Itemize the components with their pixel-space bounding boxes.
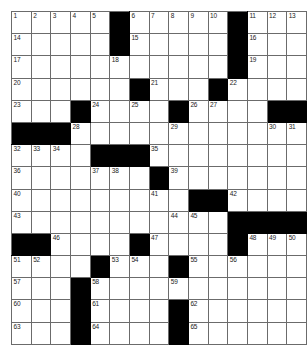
crossword-cell[interactable]: [208, 233, 228, 255]
crossword-cell[interactable]: [51, 56, 71, 78]
crossword-cell[interactable]: [267, 78, 287, 100]
crossword-cell[interactable]: [247, 322, 267, 344]
crossword-cell[interactable]: [51, 167, 71, 189]
crossword-cell[interactable]: [287, 189, 307, 211]
crossword-cell[interactable]: [90, 211, 110, 233]
crossword-cell[interactable]: [90, 189, 110, 211]
crossword-cell[interactable]: [31, 78, 51, 100]
crossword-cell[interactable]: [51, 322, 71, 344]
crossword-cell[interactable]: 64: [90, 322, 110, 344]
crossword-cell[interactable]: 43: [12, 211, 32, 233]
crossword-cell[interactable]: [208, 322, 228, 344]
crossword-cell[interactable]: 19: [247, 56, 267, 78]
crossword-cell[interactable]: [287, 34, 307, 56]
crossword-cell[interactable]: [110, 78, 130, 100]
crossword-cell[interactable]: 58: [90, 278, 110, 300]
crossword-cell[interactable]: [228, 145, 248, 167]
crossword-cell[interactable]: 5: [90, 12, 110, 34]
crossword-cell[interactable]: [129, 300, 149, 322]
crossword-cell[interactable]: 9: [188, 12, 208, 34]
crossword-cell[interactable]: [287, 145, 307, 167]
crossword-cell[interactable]: [51, 34, 71, 56]
crossword-cell[interactable]: [247, 256, 267, 278]
crossword-cell[interactable]: 34: [51, 145, 71, 167]
crossword-cell[interactable]: [247, 100, 267, 122]
crossword-cell[interactable]: [247, 278, 267, 300]
crossword-cell[interactable]: [208, 145, 228, 167]
crossword-cell[interactable]: [169, 56, 189, 78]
crossword-cell[interactable]: [267, 278, 287, 300]
crossword-cell[interactable]: [70, 256, 90, 278]
crossword-cell[interactable]: [110, 122, 130, 144]
crossword-cell[interactable]: 50: [287, 233, 307, 255]
crossword-cell[interactable]: [188, 167, 208, 189]
crossword-cell[interactable]: [169, 78, 189, 100]
crossword-cell[interactable]: [169, 233, 189, 255]
crossword-cell[interactable]: [247, 189, 267, 211]
crossword-cell[interactable]: 15: [129, 34, 149, 56]
crossword-cell[interactable]: [70, 145, 90, 167]
crossword-cell[interactable]: [188, 145, 208, 167]
crossword-cell[interactable]: 47: [149, 233, 169, 255]
crossword-cell[interactable]: 29: [169, 122, 189, 144]
crossword-cell[interactable]: 55: [188, 256, 208, 278]
crossword-cell[interactable]: [247, 145, 267, 167]
crossword-cell[interactable]: [31, 34, 51, 56]
crossword-cell[interactable]: [287, 278, 307, 300]
crossword-cell[interactable]: [267, 256, 287, 278]
crossword-cell[interactable]: [90, 56, 110, 78]
crossword-cell[interactable]: [267, 167, 287, 189]
crossword-cell[interactable]: 65: [188, 322, 208, 344]
crossword-cell[interactable]: 60: [12, 300, 32, 322]
crossword-cell[interactable]: [149, 256, 169, 278]
crossword-cell[interactable]: 56: [228, 256, 248, 278]
crossword-cell[interactable]: [70, 78, 90, 100]
crossword-cell[interactable]: [129, 122, 149, 144]
crossword-cell[interactable]: [70, 167, 90, 189]
crossword-cell[interactable]: [188, 122, 208, 144]
crossword-cell[interactable]: [70, 34, 90, 56]
crossword-cell[interactable]: [70, 233, 90, 255]
crossword-cell[interactable]: 49: [267, 233, 287, 255]
crossword-cell[interactable]: [110, 322, 130, 344]
crossword-cell[interactable]: 45: [188, 211, 208, 233]
crossword-cell[interactable]: 11: [247, 12, 267, 34]
crossword-cell[interactable]: [208, 122, 228, 144]
crossword-grid[interactable]: 1234567891011121314151617181920212223242…: [11, 11, 307, 345]
crossword-cell[interactable]: 36: [12, 167, 32, 189]
crossword-cell[interactable]: 16: [247, 34, 267, 56]
crossword-cell[interactable]: [208, 256, 228, 278]
crossword-cell[interactable]: [129, 56, 149, 78]
crossword-cell[interactable]: [247, 300, 267, 322]
crossword-cell[interactable]: 27: [208, 100, 228, 122]
crossword-cell[interactable]: 33: [31, 145, 51, 167]
crossword-cell[interactable]: [169, 145, 189, 167]
crossword-cell[interactable]: 31: [287, 122, 307, 144]
crossword-cell[interactable]: 30: [267, 122, 287, 144]
crossword-cell[interactable]: [31, 100, 51, 122]
crossword-cell[interactable]: [208, 300, 228, 322]
crossword-cell[interactable]: 53: [110, 256, 130, 278]
crossword-cell[interactable]: 14: [12, 34, 32, 56]
crossword-cell[interactable]: [31, 300, 51, 322]
crossword-cell[interactable]: 20: [12, 78, 32, 100]
crossword-cell[interactable]: [188, 56, 208, 78]
crossword-cell[interactable]: [70, 56, 90, 78]
crossword-cell[interactable]: [228, 122, 248, 144]
crossword-cell[interactable]: 52: [31, 256, 51, 278]
crossword-cell[interactable]: 7: [149, 12, 169, 34]
crossword-cell[interactable]: [129, 167, 149, 189]
crossword-cell[interactable]: 35: [149, 145, 169, 167]
crossword-cell[interactable]: 2: [31, 12, 51, 34]
crossword-cell[interactable]: [287, 256, 307, 278]
crossword-cell[interactable]: 62: [188, 300, 208, 322]
crossword-cell[interactable]: [188, 278, 208, 300]
crossword-cell[interactable]: [228, 278, 248, 300]
crossword-cell[interactable]: 28: [70, 122, 90, 144]
crossword-cell[interactable]: [267, 34, 287, 56]
crossword-cell[interactable]: [169, 189, 189, 211]
crossword-cell[interactable]: 17: [12, 56, 32, 78]
crossword-cell[interactable]: [90, 122, 110, 144]
crossword-cell[interactable]: [110, 189, 130, 211]
crossword-cell[interactable]: 61: [90, 300, 110, 322]
